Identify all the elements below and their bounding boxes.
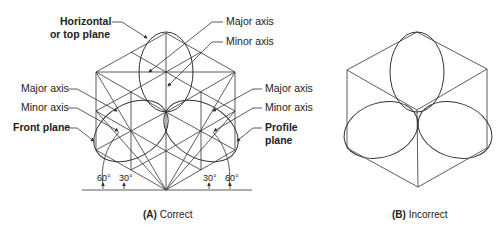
- label-profile-plane-line2: plane: [265, 134, 292, 147]
- label-top-minor-axis: Minor axis: [226, 35, 274, 48]
- label-horizontal-plane: Horizontal: [60, 15, 110, 28]
- caption-b: (B) Incorrect: [392, 209, 448, 220]
- angle-30-left: 30°: [119, 173, 133, 183]
- angle-60-right: 60°: [225, 173, 239, 183]
- caption-a: (A) Correct: [143, 209, 192, 220]
- label-horizontal-line1: Horizontal: [60, 15, 111, 27]
- label-left-minor-axis: Minor axis: [21, 101, 69, 114]
- caption-a-letter: (A): [143, 209, 157, 220]
- label-right-major-axis: Major axis: [265, 82, 313, 95]
- caption-b-text: Incorrect: [409, 209, 448, 220]
- label-top-plane-line2: or top plane: [50, 28, 110, 40]
- caption-b-letter: (B): [392, 209, 406, 220]
- label-profile-plane-line1: Profile: [265, 121, 298, 134]
- label-front-plane: Front plane: [13, 121, 70, 134]
- label-top-major-axis: Major axis: [226, 15, 274, 28]
- angle-30-right: 30°: [203, 173, 217, 183]
- label-right-minor-axis: Minor axis: [265, 101, 313, 114]
- figure-b-incorrect: [336, 32, 500, 187]
- label-left-major-axis: Major axis: [21, 82, 69, 95]
- label-top-plane: or top plane: [44, 28, 110, 41]
- angle-60-left: 60°: [97, 173, 111, 183]
- caption-a-text: Correct: [160, 209, 193, 220]
